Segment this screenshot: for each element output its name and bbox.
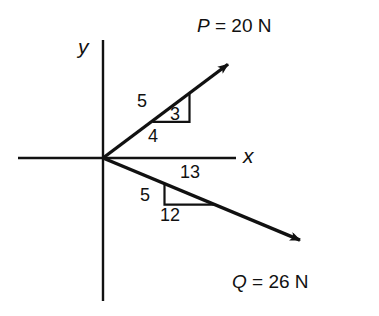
vector-q-equals: = (247, 271, 269, 292)
vector-q-magnitude: 26 (268, 271, 289, 292)
diagram-canvas (0, 0, 379, 316)
vector-p-label: P = 20 N (197, 16, 272, 35)
vector-q-symbol: Q (232, 271, 247, 292)
force-vector-diagram: y x P = 20 N Q = 26 N 5 3 4 13 5 12 (0, 0, 379, 316)
q-triangle-vertical-label: 5 (140, 186, 150, 204)
vector-q-unit: N (295, 271, 309, 292)
vector-q-arrow (103, 158, 300, 240)
y-axis-label: y (78, 36, 89, 57)
vector-q-label: Q = 26 N (232, 272, 309, 291)
x-axis-label: x (243, 145, 254, 166)
p-triangle-hypotenuse-label: 5 (137, 92, 147, 110)
q-triangle-hypotenuse-label: 13 (180, 163, 200, 181)
p-triangle-horizontal-label: 4 (148, 127, 158, 145)
vector-p-equals: = (210, 15, 232, 36)
p-triangle-vertical-label: 3 (170, 105, 180, 123)
q-triangle-horizontal-label: 12 (160, 206, 180, 224)
vector-p-arrow (103, 64, 228, 158)
vector-p-unit: N (258, 15, 272, 36)
vector-p-symbol: P (197, 15, 210, 36)
vector-p-magnitude: 20 (231, 15, 252, 36)
